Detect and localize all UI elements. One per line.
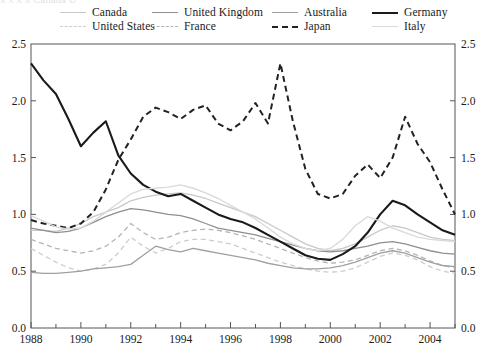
- legend-label: United Kingdom: [184, 6, 263, 18]
- legend-label: Germany: [404, 6, 448, 18]
- legend-line-sample: [152, 12, 178, 13]
- series-line-australia: [31, 246, 455, 273]
- y-axis-tick-label-left: 2.0: [2, 95, 26, 107]
- y-axis-tick-label-right: 1.0: [461, 208, 475, 220]
- x-axis-tick-label: 1994: [165, 333, 197, 345]
- legend-item-italy[interactable]: Italy: [372, 19, 426, 33]
- legend-item-united-kingdom[interactable]: United Kingdom: [152, 5, 263, 19]
- y-axis-tick-label-right: 0.0: [461, 322, 475, 334]
- x-axis-tick-label: 1990: [65, 333, 97, 345]
- x-axis-tick-label: 1988: [15, 333, 47, 345]
- legend-label: Australia: [304, 6, 347, 18]
- series-group: [31, 63, 455, 273]
- series-line-united-states: [31, 237, 455, 273]
- legend-line-sample: [152, 26, 178, 27]
- x-axis-tick-label: 1992: [115, 333, 147, 345]
- legend-label: Italy: [404, 20, 426, 32]
- y-axis-tick-label-right: 0.5: [461, 265, 475, 277]
- y-axis-tick-label-right: 2.5: [461, 38, 475, 50]
- legend-item-canada[interactable]: Canada: [60, 5, 127, 19]
- legend-line-sample: [372, 26, 398, 27]
- legend-item-australia[interactable]: Australia: [272, 5, 347, 19]
- legend-line-sample: [60, 12, 86, 13]
- x-axis-tick-label: 1996: [215, 333, 247, 345]
- legend-label: Canada: [92, 6, 127, 18]
- series-line-france: [31, 223, 455, 267]
- x-axis-tick-label: 2002: [364, 333, 396, 345]
- legend-item-france[interactable]: France: [152, 19, 216, 33]
- legend-label: Japan: [304, 20, 331, 32]
- y-axis-tick-label-right: 1.5: [461, 152, 475, 164]
- chart-figure: x x x x Canada U CanadaUnited StatesUnit…: [0, 0, 489, 358]
- legend-line-sample: [60, 26, 86, 27]
- x-axis-tick-label: 2004: [414, 333, 446, 345]
- y-axis-tick-label-left: 2.5: [2, 38, 26, 50]
- x-axis-tick-label: 2000: [314, 333, 346, 345]
- y-axis-tick-label-right: 2.0: [461, 95, 475, 107]
- chart-plot-area: [0, 0, 489, 358]
- x-axis-tick-label: 1998: [264, 333, 296, 345]
- legend-item-germany[interactable]: Germany: [372, 5, 448, 19]
- plot-frame: [31, 44, 455, 328]
- series-line-germany: [31, 63, 455, 260]
- y-axis-tick-label-left: 0.5: [2, 265, 26, 277]
- y-axis-tick-label-left: 1.0: [2, 208, 26, 220]
- chart-legend: CanadaUnited StatesUnited KingdomFranceA…: [0, 0, 489, 34]
- legend-label: United States: [92, 20, 155, 32]
- series-line-italy: [31, 185, 455, 251]
- legend-item-japan[interactable]: Japan: [272, 19, 331, 33]
- y-axis-tick-label-left: 1.5: [2, 152, 26, 164]
- legend-line-sample: [272, 12, 298, 13]
- legend-line-sample: [372, 12, 398, 14]
- legend-item-united-states[interactable]: United States: [60, 19, 155, 33]
- legend-line-sample: [272, 26, 298, 28]
- legend-label: France: [184, 20, 216, 32]
